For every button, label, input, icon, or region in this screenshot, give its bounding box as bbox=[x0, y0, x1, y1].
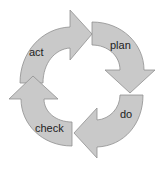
act-arrow: act bbox=[20, 10, 92, 83]
plan-label: plan bbox=[110, 39, 131, 51]
plan-arrow: plan bbox=[92, 22, 155, 93]
do-arrow-shape bbox=[74, 95, 143, 158]
do-label: do bbox=[120, 108, 132, 120]
pdca-cycle-diagram: act plan do check bbox=[0, 0, 164, 170]
act-label: act bbox=[29, 46, 44, 58]
check-arrow: check bbox=[9, 76, 72, 146]
check-arrow-shape bbox=[9, 76, 72, 146]
check-label: check bbox=[35, 122, 64, 134]
do-arrow: do bbox=[74, 95, 143, 158]
plan-arrow-shape bbox=[92, 22, 155, 93]
